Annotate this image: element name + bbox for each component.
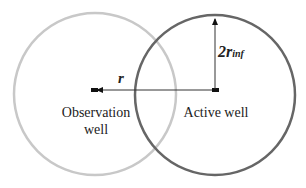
influence-radius-main: 2r: [218, 43, 232, 60]
well-diagram: [0, 0, 306, 188]
observation-influence-circle: [14, 13, 176, 175]
observation-well-label: Observation well: [44, 104, 148, 138]
observation-well-point: [91, 88, 98, 92]
influence-radius-label: 2rinf: [218, 43, 244, 61]
distance-label: r: [118, 70, 124, 87]
influence-radius-subscript: inf: [232, 48, 244, 59]
observation-well-label-line1: Observation: [44, 104, 148, 121]
active-well-label: Active well: [168, 104, 264, 121]
observation-well-label-line2: well: [44, 121, 148, 138]
